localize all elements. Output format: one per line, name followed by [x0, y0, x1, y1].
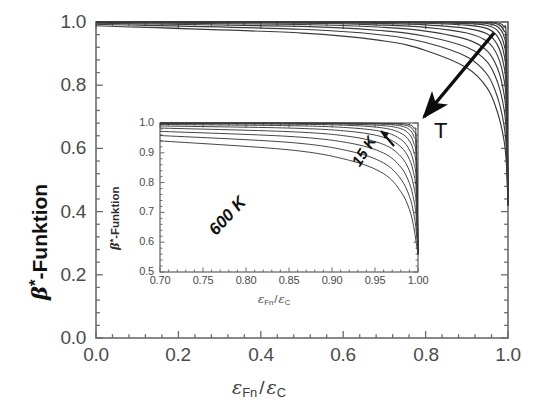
inset-xlabel-sub-c: C: [285, 298, 291, 307]
inset-ylabel-beta: β: [108, 242, 122, 250]
inset-xtick-label-0-85: 0.85: [266, 274, 312, 286]
inset-xtick-label-0-90: 0.90: [309, 274, 355, 286]
main-xtick-label-0-6: 0.6: [318, 344, 368, 366]
beta-star-function-figure: 1.0 0.8 0.6 0.4 0.2 0.0 0.0 0.2 0.4 0.6 …: [0, 0, 550, 418]
main-ytick-label-1-0: 1.0: [34, 11, 86, 33]
main-ytick-label-0-6: 0.6: [34, 137, 86, 159]
main-xlabel-eps2: ε: [267, 376, 277, 398]
main-y-axis-title: β*-Funktion: [26, 184, 52, 300]
main-xtick-label-1-0: 1.0: [483, 344, 533, 366]
inset-xtick-label-0-70: 0.70: [137, 274, 183, 286]
main-ylabel-star: *: [26, 280, 45, 287]
main-xlabel-sub-c: C: [277, 385, 286, 400]
inset-xtick-label-0-95: 0.95: [352, 274, 398, 286]
inset-ylabel-suffix: -Funktion: [109, 186, 121, 238]
inset-x-axis-title: εFn/εC: [258, 292, 290, 307]
inset-xtick-label-0-75: 0.75: [180, 274, 226, 286]
main-ytick-label-0-8: 0.8: [34, 74, 86, 96]
inset-xtick-label-0-80: 0.80: [223, 274, 269, 286]
inset-ytick-label-0-9: 0.9: [112, 146, 154, 158]
inset-xtick-label-1-00: 1.00: [395, 274, 441, 286]
main-x-axis-title: εFn/εC: [232, 376, 286, 400]
arrow-shaft: [424, 33, 494, 117]
inset-xlabel-sub-fn: Fn: [264, 298, 273, 307]
main-ylabel-beta: β: [27, 286, 52, 300]
main-ylabel-suffix: -Funktion: [28, 184, 51, 280]
main-xlabel-sub-fn: Fn: [242, 385, 257, 400]
main-xtick-label-0-0: 0.0: [71, 344, 121, 366]
main-xtick-label-0-4: 0.4: [236, 344, 286, 366]
main-xlabel-slash: /: [257, 377, 266, 398]
temperature-direction-arrow: [424, 33, 494, 117]
inset-y-axis-title: β*-Funktion: [108, 186, 122, 250]
main-xtick-label-0-2: 0.2: [153, 344, 203, 366]
inset-axis-box: [160, 123, 418, 272]
inset-plot-frame: [160, 123, 418, 272]
main-xlabel-eps1: ε: [232, 376, 242, 398]
inset-ylabel-star: *: [108, 239, 118, 243]
inset-ytick-label-1-0: 1.0: [112, 116, 154, 128]
temperature-arrow-label: T: [434, 118, 447, 144]
main-xtick-label-0-8: 0.8: [401, 344, 451, 366]
